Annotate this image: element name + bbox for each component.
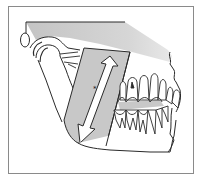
ear-outline [21,33,30,47]
jaw-diagram-svg [0,0,202,178]
asterisk-marker: * [93,86,97,93]
jaw-illustration: * [0,0,202,178]
